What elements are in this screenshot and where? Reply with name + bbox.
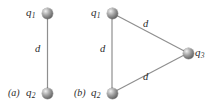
charge-sphere-q1 bbox=[42, 8, 53, 19]
charge-subscript-q2: 2 bbox=[97, 91, 101, 100]
figure-charge-configurations: q1 d q2 (a) q1 q2 q3 d d d bbox=[0, 0, 210, 108]
distance-label-d-a-vertical: d bbox=[35, 44, 40, 55]
charge-sphere-q1 bbox=[107, 8, 118, 19]
charge-symbol-q2: q bbox=[26, 86, 32, 98]
charge-label-q1: q1 bbox=[91, 7, 100, 18]
charge-label-q2: q2 bbox=[91, 87, 100, 98]
charge-sphere-q3 bbox=[183, 48, 194, 59]
charge-subscript-q2: 2 bbox=[32, 91, 36, 100]
charge-label-q3: q3 bbox=[195, 47, 204, 58]
charge-symbol-q3: q bbox=[195, 46, 201, 58]
charge-symbol-q1: q bbox=[91, 6, 97, 18]
edge-q2-q3 bbox=[112, 53, 188, 93]
charge-sphere-q2 bbox=[107, 88, 118, 99]
distance-label-d-b-upper: d bbox=[143, 19, 148, 30]
panel-a-caption: (a) bbox=[8, 88, 20, 98]
charge-subscript-q1: 1 bbox=[32, 11, 36, 20]
charge-symbol-q2: q bbox=[91, 86, 97, 98]
charge-subscript-q1: 1 bbox=[97, 11, 101, 20]
panel-b-caption: (b) bbox=[74, 88, 86, 98]
charge-subscript-q3: 3 bbox=[201, 51, 205, 60]
distance-label-d-b-lower: d bbox=[143, 72, 148, 83]
distance-label-d-b-left: d bbox=[100, 44, 105, 55]
charge-symbol-q1: q bbox=[26, 6, 32, 18]
charge-label-q1: q1 bbox=[26, 7, 35, 18]
charge-sphere-q2 bbox=[42, 88, 53, 99]
charge-label-q2: q2 bbox=[26, 87, 35, 98]
panel-b: q1 q2 q3 d d d (b) bbox=[90, 0, 210, 108]
edge-q1-q3 bbox=[112, 13, 188, 53]
